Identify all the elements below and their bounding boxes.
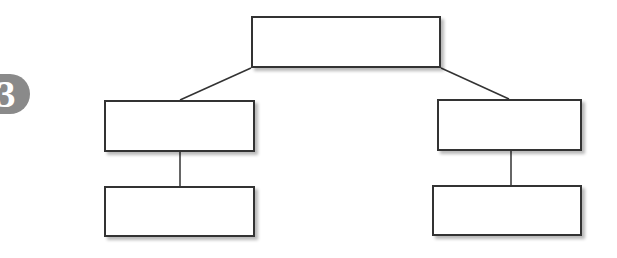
edge-root-to-right-child — [441, 68, 509, 99]
right-grandchild-node — [432, 185, 582, 236]
right-child-node — [437, 99, 582, 151]
edge-root-to-left-child — [180, 68, 251, 100]
left-grandchild-node — [104, 186, 255, 237]
root-node — [251, 16, 441, 68]
left-child-node — [104, 100, 255, 152]
